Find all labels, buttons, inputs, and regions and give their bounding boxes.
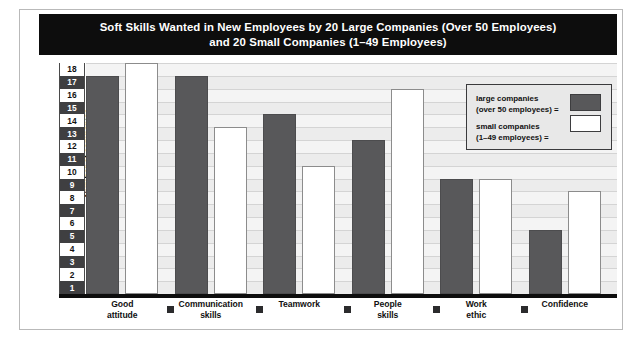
x-axis-label-line-2: ethic [428,310,524,321]
bar-large-teamwork [263,114,296,294]
bar-small-work-ethic [479,179,512,295]
chart-title-banner: Soft Skills Wanted in New Employees by 2… [39,14,617,55]
chart-title-line-1: Soft Skills Wanted in New Employees by 2… [100,21,557,33]
y-axis-tick-13: 13 [60,127,84,140]
x-axis-label-people-skills: Peopleskills [340,299,436,320]
y-axis-tick-11: 11 [60,153,84,166]
y-axis-tick-8: 8 [60,191,84,204]
bar-large-confidence [529,230,562,294]
legend-entry-small-companies: small companies (1–49 employees) = [476,122,549,143]
x-axis-baseline [59,294,617,298]
chart-body: Number of companies 18171615141312111098… [39,63,617,322]
legend-small-line-1: small companies [476,122,540,131]
x-axis-label-line-2: skills [340,310,436,321]
chart-figure: Soft Skills Wanted in New Employees by 2… [0,0,643,348]
y-axis-tick-labels: 181716151413121110987654321 [59,63,85,294]
legend-large-line-2: (over 50 employees) = [476,105,559,114]
y-axis-tick-18: 18 [60,63,84,76]
y-axis-tick-12: 12 [60,140,84,153]
y-axis-tick-2: 2 [60,268,84,281]
y-axis-tick-4: 4 [60,243,84,256]
x-axis-label-line-2: attitude [74,310,170,321]
legend-swatch-large-companies [570,94,601,111]
bar-small-teamwork [302,166,335,294]
y-axis-tick-17: 17 [60,76,84,89]
x-axis-label-line-1: Communication [163,299,259,310]
bar-small-good-attitude [125,63,158,294]
y-axis-tick-6: 6 [60,217,84,230]
x-axis-label-line-2: skills [163,310,259,321]
bar-small-confidence [568,191,601,294]
y-axis-tick-1: 1 [60,281,84,294]
y-axis-tick-15: 15 [60,102,84,115]
y-axis-tick-3: 3 [60,256,84,269]
x-axis-label-good-attitude: Goodattitude [74,299,170,320]
y-axis-tick-7: 7 [60,204,84,217]
x-axis-label-confidence: Confidence [517,299,613,310]
y-axis-tick-9: 9 [60,179,84,192]
bar-small-communication-skills [214,127,247,294]
y-axis-tick-5: 5 [60,230,84,243]
x-axis-label-communication-skills: Communicationskills [163,299,259,320]
legend-entry-large-companies: large companies (over 50 employees) = [476,94,559,115]
bar-large-communication-skills [175,76,208,294]
chart-title-line-2: and 20 Small Companies (1–49 Employees) [209,36,447,48]
legend-small-line-2: (1–49 employees) = [476,133,549,142]
x-axis-label-line-1: Teamwork [251,299,347,310]
bar-large-good-attitude [86,76,119,294]
y-axis-tick-14: 14 [60,114,84,127]
y-axis-tick-10: 10 [60,166,84,179]
x-axis-label-line-1: Good [74,299,170,310]
chart-legend: large companies (over 50 employees) = sm… [466,84,612,150]
bar-large-work-ethic [440,179,473,295]
legend-large-line-1: large companies [476,94,538,103]
x-axis-tick-labels: GoodattitudeCommunicationskillsTeamworkP… [86,299,617,325]
y-axis-tick-16: 16 [60,89,84,102]
legend-swatch-small-companies [570,115,601,132]
x-axis-label-work-ethic: Workethic [428,299,524,320]
chart-title: Soft Skills Wanted in New Employees by 2… [94,20,563,49]
x-axis-label-teamwork: Teamwork [251,299,347,310]
x-axis-label-line-1: Confidence [517,299,613,310]
x-axis-label-line-1: Work [428,299,524,310]
bar-small-people-skills [391,89,424,294]
x-axis-label-line-1: People [340,299,436,310]
bar-large-people-skills [352,140,385,294]
